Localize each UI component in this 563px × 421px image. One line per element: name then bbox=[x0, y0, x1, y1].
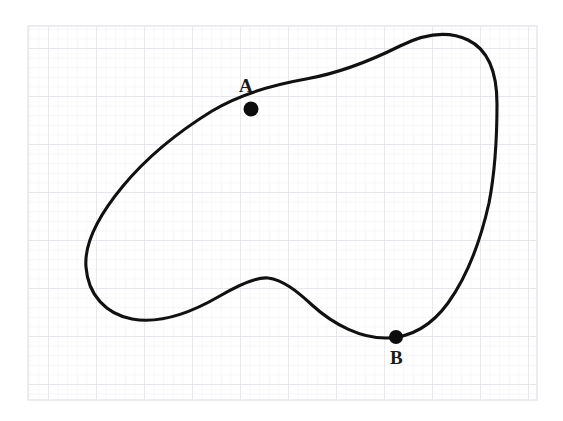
point-marker-b bbox=[389, 330, 403, 344]
figure-canvas: A B bbox=[0, 0, 563, 421]
point-marker-a bbox=[244, 102, 259, 117]
figure-svg bbox=[0, 0, 563, 421]
point-label-a: A bbox=[239, 76, 253, 95]
point-label-b: B bbox=[390, 348, 403, 367]
